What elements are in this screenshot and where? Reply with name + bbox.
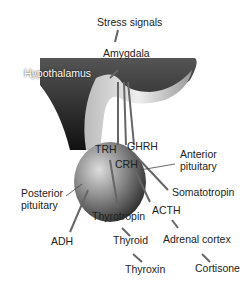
label-posterior-pituitary-2: pituitary bbox=[21, 200, 58, 211]
label-adh: ADH bbox=[51, 236, 73, 247]
label-thyroxin: Thyroxin bbox=[125, 264, 165, 275]
label-anterior-pituitary-2: pituitary bbox=[180, 161, 217, 172]
label-crh: CRH bbox=[115, 159, 138, 170]
label-acth: ACTH bbox=[152, 205, 181, 216]
label-adrenal-cortex: Adrenal cortex bbox=[163, 234, 231, 245]
label-cortisone: Cortisone bbox=[195, 263, 240, 274]
label-thyrotropin: Thyrotropin bbox=[92, 211, 145, 222]
label-amygdala: Amygdala bbox=[103, 48, 150, 59]
label-hypothalamus: Hypothalamus bbox=[24, 68, 91, 79]
label-anterior-pituitary-1: Anterior bbox=[180, 149, 217, 160]
label-posterior-pituitary-1: Posterior bbox=[21, 188, 63, 199]
label-somatotropin: Somatotropin bbox=[172, 187, 234, 198]
label-stress-signals: Stress signals bbox=[97, 17, 162, 28]
label-trh: TRH bbox=[95, 144, 117, 155]
label-thyroid: Thyroid bbox=[113, 235, 148, 246]
label-ghrh: GHRH bbox=[127, 141, 158, 152]
